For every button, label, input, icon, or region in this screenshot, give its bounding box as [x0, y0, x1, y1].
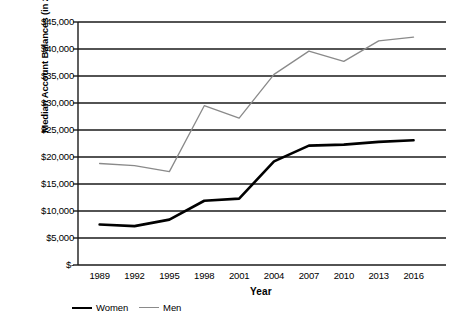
line-chart: Median Account Balances (in 2016 Dollars… [0, 0, 466, 325]
series-line-men [100, 37, 414, 171]
legend-item-women: Women [72, 302, 128, 313]
legend-item-men: Men [139, 302, 181, 313]
legend-label-men: Men [163, 302, 181, 313]
chart-legend: Women Men [72, 302, 181, 313]
x-axis-title: Year [75, 286, 447, 297]
x-axis-tick-label: 2016 [394, 270, 434, 281]
series-line-women [100, 140, 414, 226]
legend-swatch-men-icon [139, 307, 159, 308]
legend-swatch-women-icon [72, 307, 92, 309]
legend-label-women: Women [96, 302, 128, 313]
